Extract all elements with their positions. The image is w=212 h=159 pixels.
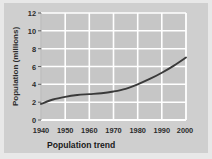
chart-caption: Population trend [47,140,115,150]
x-tick-label-1970: 1970 [105,126,121,135]
x-tick-label-1960: 1960 [81,126,97,135]
y-tick-label-0: 0 [32,116,36,125]
y-axis-label: Population (millions) [11,27,20,106]
x-tick-label-1980: 1980 [129,126,145,135]
y-tick-label-4: 4 [32,80,37,89]
y-tick-label-12: 12 [28,9,36,18]
population-trend-chart: 12 10 8 6 4 2 0 1940 1950 1960 1970 1980… [0,0,212,159]
y-tick-label-6: 6 [32,63,36,72]
x-tick-label-1950: 1950 [57,126,73,135]
y-tick-label-8: 8 [32,45,36,54]
chart-figure: 12 10 8 6 4 2 0 1940 1950 1960 1970 1980… [0,0,212,159]
x-tick-label-1990: 1990 [154,126,170,135]
y-tick-label-2: 2 [32,98,36,107]
x-tick-label-1940: 1940 [33,126,49,135]
x-tick-label-2000: 2000 [177,126,193,135]
y-tick-label-10: 10 [28,27,36,36]
